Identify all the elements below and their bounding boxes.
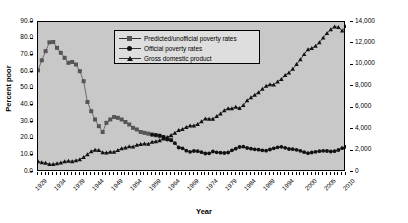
- x-axis-tick-mark: [117, 172, 118, 175]
- data-point: [78, 69, 82, 73]
- y-axis-left-tick-label: 0.0: [1, 168, 33, 175]
- y-axis-right-tick-mark: [350, 150, 353, 151]
- data-point: [169, 138, 173, 142]
- x-axis-tick-mark: [315, 172, 316, 175]
- data-point: [38, 68, 40, 72]
- x-axis-tick-mark: [170, 172, 171, 175]
- data-point: [253, 93, 257, 97]
- y-axis-left-tick-label: 20.0: [1, 134, 33, 141]
- x-axis-tick-mark: [75, 172, 76, 175]
- x-axis-tick-mark: [45, 172, 46, 175]
- y-axis-right-tick-label: 2,000: [355, 146, 395, 153]
- x-axis-tick-mark: [83, 172, 84, 175]
- data-point: [116, 116, 120, 120]
- x-axis-tick-mark: [318, 172, 319, 175]
- x-axis-tick-mark: [307, 172, 308, 175]
- y-axis-left-tick-label: 90.0: [1, 18, 33, 25]
- legend-label: Gross domestic product: [142, 55, 211, 62]
- x-axis-tick-mark: [197, 172, 198, 175]
- data-point: [283, 146, 287, 150]
- x-axis-tick-mark: [280, 172, 281, 175]
- x-axis-tick-mark: [235, 172, 236, 175]
- x-axis-tick-mark: [261, 172, 262, 175]
- data-point: [276, 145, 280, 149]
- data-point: [70, 60, 74, 64]
- x-axis-tick-mark: [60, 172, 61, 175]
- data-point: [333, 149, 337, 153]
- data-point: [89, 149, 93, 153]
- y-axis-right-tick-label: 12,000: [355, 39, 395, 46]
- x-axis-tick-mark: [102, 172, 103, 175]
- data-point: [127, 123, 131, 127]
- data-point: [59, 51, 63, 55]
- y-axis-left-tick-label: 80.0: [1, 34, 33, 41]
- data-point: [317, 149, 321, 153]
- data-point: [157, 138, 161, 142]
- y-axis-right-tick-label: 8,000: [355, 82, 395, 89]
- x-axis-tick-mark: [227, 172, 228, 175]
- y-axis-right-tick-label: 10,000: [355, 60, 395, 67]
- data-point: [337, 148, 341, 152]
- x-axis-tick-mark: [189, 172, 190, 175]
- data-point: [180, 127, 184, 131]
- x-axis-title: Year: [0, 207, 408, 216]
- data-point: [260, 148, 264, 152]
- x-axis-tick-mark: [98, 172, 99, 175]
- x-axis-tick-mark: [208, 172, 209, 175]
- x-axis-tick-mark: [178, 172, 179, 175]
- x-axis-tick-mark: [113, 172, 114, 175]
- y-axis-left-tick-mark: [30, 38, 33, 39]
- data-point: [249, 95, 253, 99]
- y-axis-right-tick-mark: [350, 85, 353, 86]
- data-point: [139, 130, 143, 134]
- legend-marker-triangle-icon: [118, 53, 142, 63]
- data-point: [158, 134, 162, 138]
- data-point: [325, 149, 329, 153]
- x-axis-tick-mark: [67, 172, 68, 175]
- data-point: [329, 150, 333, 154]
- y-axis-left-tick-mark: [30, 138, 33, 139]
- data-point: [287, 147, 291, 151]
- data-point: [275, 79, 279, 83]
- data-point: [63, 56, 67, 60]
- x-axis-tick-mark: [223, 172, 224, 175]
- data-point: [181, 146, 185, 150]
- data-point: [291, 147, 295, 151]
- data-point: [332, 24, 336, 28]
- data-point: [230, 148, 234, 152]
- data-point: [97, 124, 101, 128]
- y-axis-left-tick-mark: [30, 21, 33, 22]
- y-axis-left-tick-label: 40.0: [1, 101, 33, 108]
- data-point: [226, 151, 230, 155]
- y-axis-left-ticks: 0.010.020.030.040.050.060.070.080.090.0: [0, 21, 33, 171]
- y-axis-right-tick-mark: [350, 21, 353, 22]
- x-axis-tick-mark: [242, 172, 243, 175]
- data-point: [249, 147, 253, 151]
- data-point: [215, 150, 219, 154]
- x-axis-tick-mark: [204, 172, 205, 175]
- x-axis-tick-mark: [212, 172, 213, 175]
- data-point: [298, 149, 302, 153]
- data-point: [310, 151, 314, 155]
- legend-marker-circle-icon: [118, 43, 142, 53]
- x-axis-tick-label: 2005: [316, 177, 337, 198]
- data-point: [211, 150, 215, 154]
- x-axis-tick-label: 2000: [297, 177, 318, 198]
- y-axis-right-tick-label: 0: [355, 168, 395, 175]
- x-axis-tick-mark: [185, 172, 186, 175]
- data-point: [177, 146, 181, 150]
- x-axis-tick-mark: [71, 172, 72, 175]
- x-axis-tick-mark: [326, 172, 327, 175]
- x-axis-tick-label: 1964: [161, 177, 182, 198]
- x-axis-tick-mark: [288, 172, 289, 175]
- data-point: [104, 121, 108, 125]
- y-axis-left-tick-mark: [30, 54, 33, 55]
- x-axis-tick-mark: [303, 172, 304, 175]
- x-axis-tick-mark: [265, 172, 266, 175]
- x-axis-tick-label: 1979: [218, 177, 239, 198]
- x-axis-tick-mark: [193, 172, 194, 175]
- data-point: [169, 133, 173, 137]
- y-axis-left-tick-label: 70.0: [1, 51, 33, 58]
- data-point: [321, 149, 325, 153]
- x-axis-tick-mark: [79, 172, 80, 175]
